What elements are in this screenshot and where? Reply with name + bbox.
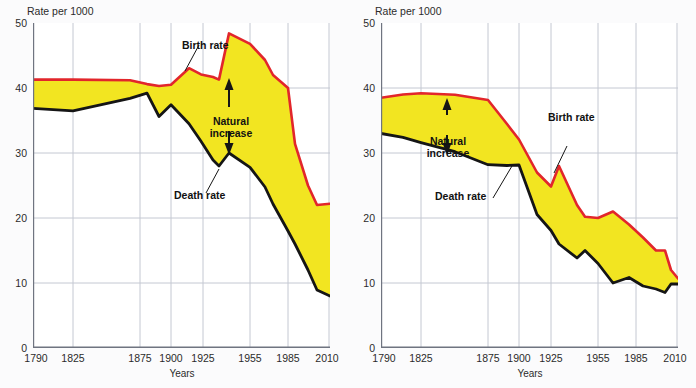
y-tick-50-right: 50 [351, 17, 375, 29]
annotation-natural-line2-right: increase [427, 147, 470, 159]
y-tick-10-right: 10 [351, 277, 375, 289]
y-tick-40-right: 40 [351, 82, 375, 94]
y-tick-10-left: 10 [3, 277, 27, 289]
chart-panel-developed: Rate per 1000 Developed countries [348, 0, 696, 388]
x-tick-1875-left: 1875 [128, 352, 151, 364]
annotation-birth-rate-right: Birth rate [548, 111, 595, 123]
y-tick-30-right: 30 [351, 147, 375, 159]
x-tick-1900-left: 1900 [159, 352, 182, 364]
x-tick-1825-left: 1825 [61, 352, 84, 364]
x-axis-label-left: Years [169, 368, 194, 379]
y-axis-caption-right: Rate per 1000 [375, 5, 442, 17]
y-tick-50-left: 50 [3, 17, 27, 29]
x-tick-1875-right: 1875 [476, 352, 499, 364]
y-axis-caption-left: Rate per 1000 [27, 5, 94, 17]
x-tick-2010-right: 2010 [663, 352, 686, 364]
annotation-natural-increase-left: Natural increase [199, 115, 263, 139]
annotation-natural-increase-right: Natural increase [416, 135, 480, 159]
x-tick-1955-right: 1955 [586, 352, 609, 364]
annotation-birth-rate-left: Birth rate [182, 39, 229, 51]
x-tick-1985-left: 1985 [276, 352, 299, 364]
annotation-natural-line1-left: Natural [213, 115, 249, 127]
chart-svg-developing [33, 23, 330, 348]
chart-svg-developed [381, 23, 678, 348]
annotation-natural-line2-left: increase [210, 127, 253, 139]
x-tick-1790-left: 1790 [24, 352, 47, 364]
x-axis-label-right: Years [517, 368, 542, 379]
y-tick-30-left: 30 [3, 147, 27, 159]
y-tick-20-right: 20 [351, 212, 375, 224]
x-tick-1985-right: 1985 [624, 352, 647, 364]
x-tick-1825-right: 1825 [409, 352, 432, 364]
annotation-natural-line1-right: Natural [430, 135, 466, 147]
x-tick-1925-left: 1925 [191, 352, 214, 364]
x-tick-1900-right: 1900 [507, 352, 530, 364]
y-tick-20-left: 20 [3, 212, 27, 224]
annotation-death-rate-right: Death rate [435, 190, 486, 202]
plot-area-developing [33, 23, 330, 348]
plot-area-developed [381, 23, 678, 348]
x-tick-1955-left: 1955 [238, 352, 261, 364]
x-tick-1790-right: 1790 [372, 352, 395, 364]
chart-panel-developing: Rate per 1000 Developing countries [0, 0, 348, 388]
annotation-death-rate-left: Death rate [174, 189, 225, 201]
x-tick-1925-right: 1925 [539, 352, 562, 364]
x-tick-2010-left: 2010 [315, 352, 338, 364]
y-tick-40-left: 40 [3, 82, 27, 94]
